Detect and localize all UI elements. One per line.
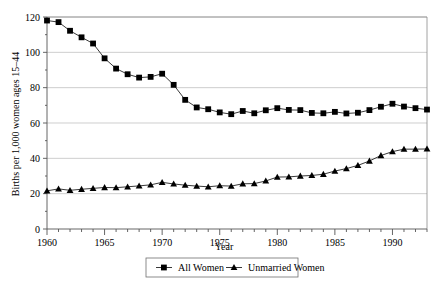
data-point	[297, 107, 303, 113]
data-point	[67, 28, 73, 34]
data-point	[55, 186, 62, 192]
data-point	[44, 18, 50, 24]
x-tick-label-1985: 1985	[325, 237, 345, 248]
data-point	[125, 71, 131, 77]
data-point	[217, 110, 223, 116]
data-point	[194, 105, 200, 111]
data-point	[228, 111, 234, 117]
y-tick-label-120: 120	[25, 12, 40, 23]
data-point	[205, 106, 211, 112]
data-point	[378, 104, 384, 110]
data-point	[113, 66, 119, 72]
gridlines-group	[47, 17, 427, 194]
data-point	[274, 105, 280, 111]
x-tick-label-1965: 1965	[95, 237, 115, 248]
series-all-women	[44, 18, 430, 117]
series-line-0	[47, 21, 427, 115]
data-point	[401, 104, 407, 110]
data-point	[136, 75, 142, 81]
data-point	[332, 109, 338, 115]
x-tick-label-1960: 1960	[37, 237, 57, 248]
legend-label-all-women: All Women	[178, 262, 224, 273]
series-line-1	[47, 149, 427, 191]
data-point	[148, 74, 154, 80]
data-point	[182, 97, 188, 103]
series-unmarried-women	[44, 146, 431, 194]
y-axis	[43, 17, 47, 229]
data-point	[286, 107, 292, 113]
x-axis-title: Year	[215, 241, 234, 252]
y-tick-label-60: 60	[30, 118, 40, 129]
data-point	[263, 107, 269, 113]
data-point	[343, 111, 349, 117]
data-point	[159, 71, 165, 77]
y-tick-label-20: 20	[30, 188, 40, 199]
x-tick-label-1990: 1990	[382, 237, 402, 248]
data-point	[424, 107, 430, 113]
data-point	[102, 55, 108, 61]
data-point	[367, 107, 373, 113]
data-point	[159, 179, 166, 185]
legend-label-unmarried-women: Unmarried Women	[248, 262, 325, 273]
data-point	[413, 105, 419, 111]
data-point	[390, 101, 396, 107]
x-tick-label-1980: 1980	[267, 237, 287, 248]
data-point	[171, 82, 177, 88]
y-tick-label-100: 100	[25, 47, 40, 58]
data-series-layer	[44, 18, 431, 194]
legend-square-icon	[161, 265, 167, 271]
data-point	[79, 34, 85, 40]
y-axis-title: Births per 1,000 women ages 15–44	[10, 52, 21, 196]
data-point	[309, 110, 315, 116]
y-tick-label-80: 80	[30, 82, 40, 93]
data-point	[240, 108, 246, 114]
birth-rate-line-chart: 020406080100120 196019651970197519801985…	[0, 0, 444, 291]
chart-canvas: 020406080100120 196019651970197519801985…	[0, 0, 444, 291]
data-point	[56, 19, 62, 25]
y-tick-label-40: 40	[30, 153, 40, 164]
data-point	[355, 110, 361, 116]
chart-legend: All WomenUnmarried Women	[146, 258, 325, 277]
x-axis	[47, 229, 427, 235]
x-tick-label-1970: 1970	[152, 237, 172, 248]
y-tick-labels: 020406080100120	[25, 12, 40, 235]
data-point	[251, 110, 257, 116]
y-tick-label-0: 0	[35, 224, 40, 235]
data-point	[320, 110, 326, 116]
data-point	[355, 162, 362, 168]
data-point	[90, 41, 96, 47]
